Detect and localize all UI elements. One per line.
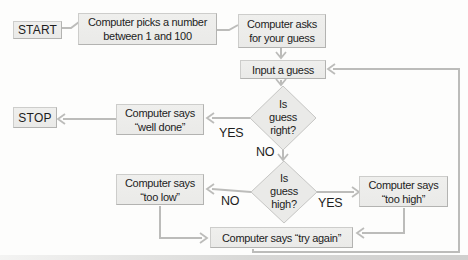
node-too-high: Computer says “too high” [359,176,448,207]
label-yes-right: YES [219,126,243,140]
edge-start-pick [62,22,79,28]
edge-toolow-tryagain [160,206,202,238]
label-no-right: NO [256,145,274,159]
node-too-low-line2: “too low” [140,190,179,204]
node-too-high-line2: “too high” [382,192,425,206]
label-yes-high: YES [318,196,342,210]
node-start: START [13,21,62,39]
node-pick-number: Computer picks a number between 1 and 10… [78,13,217,45]
edge-ishigh-toolow-no [212,189,251,192]
label-no-high: NO [221,194,239,208]
node-too-high-line1: Computer says [368,178,438,192]
node-pick-number-line2: between 1 and 100 [103,29,191,43]
node-ask-guess-line1: Computer asks [247,17,317,31]
decision-right-line1: Is [253,98,313,111]
decision-is-guess-right-text: Is guess right? [253,98,313,137]
node-try-again: Computer says “try again” [210,227,353,248]
edge-pick-ask [217,25,238,30]
decision-high-line1: Is [254,172,314,185]
node-well-done-line2: “well done” [135,120,186,134]
node-input-guess: Input a guess [240,60,326,79]
decision-right-line3: right? [253,124,313,137]
node-too-low-line1: Computer says [125,176,195,190]
node-stop: STOP [13,107,57,128]
node-ask-guess-line2: for your guess [249,31,315,45]
node-too-low: Computer says “too low” [116,174,204,205]
node-pick-number-line1: Computer picks a number [88,15,207,29]
node-ask-guess: Computer asks for your guess [238,14,326,48]
decision-is-guess-high-text: Is guess high? [254,172,314,211]
edge-toohigh-tryagain [362,208,404,233]
decision-high-line2: guess [254,185,314,198]
scan-shadow-artifact [0,255,468,260]
decision-high-line3: high? [254,198,314,211]
flowchart-guessing-game: START Computer picks a number between 1 … [0,0,468,260]
decision-right-line2: guess [253,111,313,124]
node-well-done-line1: Computer says [125,106,195,120]
node-well-done: Computer says “well done” [116,104,204,135]
